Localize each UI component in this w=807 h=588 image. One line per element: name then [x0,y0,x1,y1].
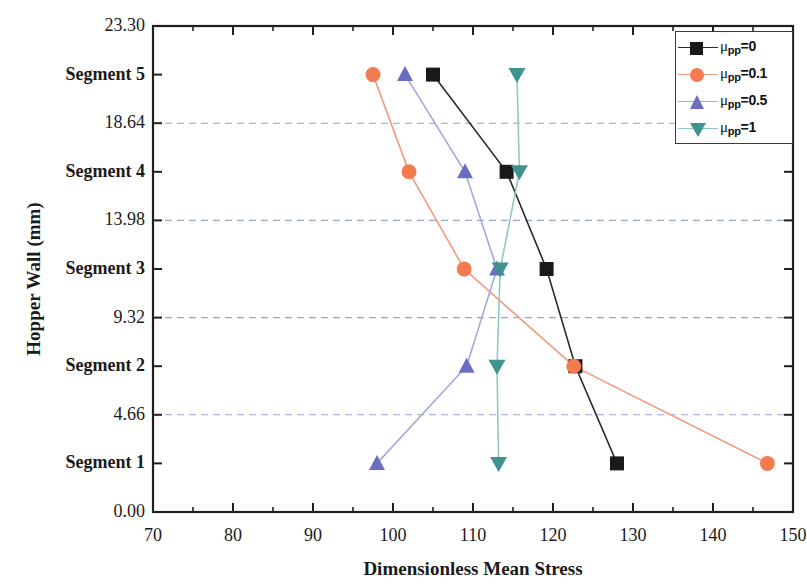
legend-marker-icon [690,68,704,82]
legend-marker-sample [676,118,720,140]
legend-marker-icon [690,42,703,55]
legend: μpp=0μpp=0.1μpp=0.5μpp=1 [675,31,793,144]
data-point-marker [457,163,473,178]
legend-item[interactable]: μpp=1 [676,116,794,141]
legend-item[interactable]: μpp=0 [676,35,794,60]
legend-marker-icon [690,95,704,109]
data-point-marker [426,68,440,82]
legend-marker-icon [690,123,706,137]
data-point-marker [760,456,775,471]
data-point-marker [397,66,413,81]
legend-label: μpp=1 [720,119,756,137]
legend-label: μpp=0 [720,38,756,56]
data-point-marker [509,68,526,83]
data-point-marker [540,262,554,276]
data-point-marker [459,358,475,373]
legend-item[interactable]: μpp=0.1 [676,62,794,87]
data-point-marker [566,359,581,374]
chart-figure: Hopper Wall (mm) Dimensionless Mean Stre… [0,0,807,588]
data-point-marker [402,164,417,179]
legend-marker-sample [676,64,720,86]
legend-marker-sample [676,37,720,59]
legend-item[interactable]: μpp=0.5 [676,89,794,114]
data-point-marker [366,67,381,82]
data-point-marker [490,457,507,472]
legend-label: μpp=0.1 [720,65,767,83]
legend-label: μpp=0.5 [720,92,767,110]
data-point-marker [457,262,472,277]
legend-marker-sample [676,91,720,113]
data-point-marker [500,165,514,179]
data-point-marker [489,360,506,375]
data-point-marker [610,456,624,470]
